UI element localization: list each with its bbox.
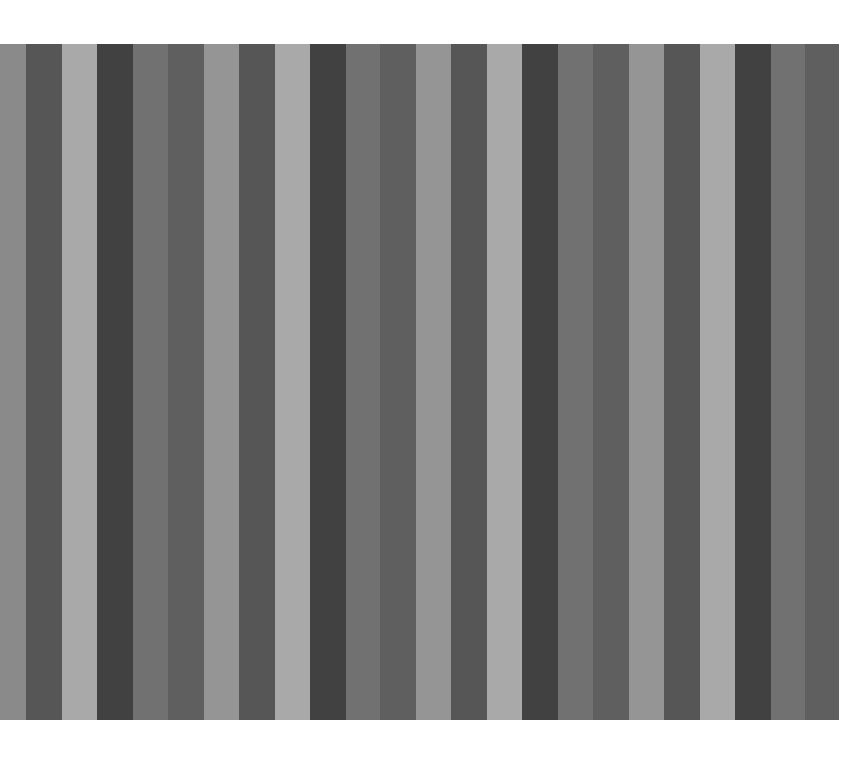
stripe-light [62,44,97,720]
stripe-light [487,44,522,720]
stripe-darkest [310,44,346,720]
stripe-mid [0,44,26,720]
stripe-darkest [522,44,558,720]
stripe-dark [239,44,275,720]
stripe-mid2 [346,44,380,720]
stripe-light [700,44,735,720]
stripe-darkmid [805,44,839,720]
stripe-darkmid [380,44,416,720]
stripe-lightmid [629,44,664,720]
stripe-lightmid [416,44,451,720]
stripe-darkmid [593,44,629,720]
stripe-mid2 [133,44,168,720]
stripe-light [275,44,310,720]
stripe-dark [451,44,487,720]
stripe-darkmid [168,44,204,720]
stripe-dark [664,44,700,720]
vertical-stripe-pattern [0,44,839,720]
stripe-dark [26,44,62,720]
stripe-darkest [97,44,133,720]
stripe-lightmid [204,44,239,720]
stripe-darkest [735,44,771,720]
stripe-mid2 [771,44,805,720]
stripe-mid2 [558,44,593,720]
